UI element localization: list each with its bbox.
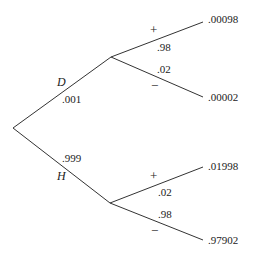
sign-D-minus: −: [151, 78, 158, 93]
joint-H-minus: .97902: [208, 234, 238, 246]
prob-D-minus: .02: [157, 63, 171, 75]
branch-prob-D: .001: [62, 93, 81, 105]
branch-label-D: D: [56, 75, 66, 89]
sign-H-plus: +: [150, 168, 157, 183]
prob-D-plus: .98: [157, 41, 171, 53]
branch-label-H: H: [56, 169, 67, 183]
prob-H-plus: .02: [158, 186, 172, 198]
joint-H-plus: .01998: [208, 160, 239, 172]
joint-D-minus: .00002: [208, 91, 238, 103]
edge-root-to-H: [13, 128, 110, 203]
joint-D-plus: .00098: [208, 13, 239, 25]
sign-D-plus: +: [150, 22, 157, 37]
branch-prob-H: .999: [62, 152, 82, 164]
prob-H-minus: .98: [158, 208, 172, 220]
sign-H-minus: −: [151, 223, 158, 238]
probability-tree-diagram: D .001 .999 H + .98 .02 − .00098 .00002 …: [0, 0, 259, 255]
